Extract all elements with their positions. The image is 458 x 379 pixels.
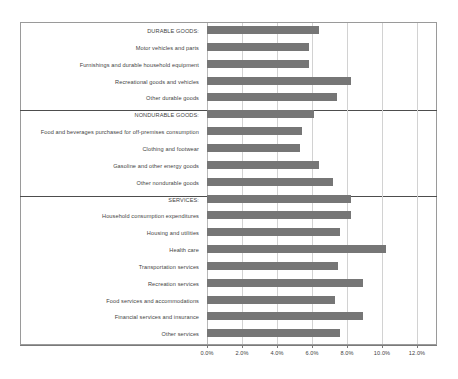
x-tick-label: 2.0% xyxy=(235,350,248,356)
category-label: Food services and accommodations xyxy=(106,293,199,310)
category-label: Clothing and footwear xyxy=(142,141,199,158)
bar xyxy=(207,262,338,270)
bar-row xyxy=(207,57,437,74)
bar-row xyxy=(207,242,437,259)
bar xyxy=(207,211,351,219)
bar xyxy=(207,93,337,101)
bar-row xyxy=(207,124,437,141)
x-tick-10.0% xyxy=(382,345,383,348)
bar-row xyxy=(207,90,437,107)
bar-row xyxy=(207,276,437,293)
category-label: Food and beverages purchased for off-pre… xyxy=(41,124,199,141)
bar xyxy=(207,43,309,51)
category-label: Health care xyxy=(169,242,199,259)
bar xyxy=(207,279,363,287)
x-tick-label: 0.0% xyxy=(200,350,213,356)
bar xyxy=(207,296,335,304)
bar-row xyxy=(207,259,437,276)
x-axis-line xyxy=(20,345,437,346)
category-label: SERVICES: xyxy=(168,192,199,209)
x-tick-2.0% xyxy=(242,345,243,348)
bar xyxy=(207,26,319,34)
bar-row xyxy=(207,326,437,343)
category-label: Household consumption expenditures xyxy=(102,208,199,225)
bar-row xyxy=(207,225,437,242)
category-label: Housing and utilities xyxy=(147,225,199,242)
bar xyxy=(207,195,351,203)
bar xyxy=(207,127,302,135)
x-tick-label: 8.0% xyxy=(340,350,353,356)
x-tick-0.0% xyxy=(207,345,208,348)
x-tick-label: 4.0% xyxy=(270,350,283,356)
category-label: Other services xyxy=(162,326,199,343)
category-label: Other nondurable goods xyxy=(136,175,199,192)
bar-row xyxy=(207,158,437,175)
bar xyxy=(207,110,314,118)
bar-row xyxy=(207,23,437,40)
category-label: NONDURABLE GOODS: xyxy=(135,107,200,124)
category-label: Recreational goods and vehicles xyxy=(115,74,199,91)
bar xyxy=(207,161,319,169)
x-tick-8.0% xyxy=(347,345,348,348)
bar-rows xyxy=(207,23,437,344)
bar xyxy=(207,312,363,320)
x-tick-6.0% xyxy=(312,345,313,348)
x-tick-label: 6.0% xyxy=(305,350,318,356)
bar-row xyxy=(207,40,437,57)
plot-area xyxy=(207,23,437,344)
bar-row xyxy=(207,107,437,124)
category-label: Motor vehicles and parts xyxy=(136,40,199,57)
category-label: Financial services and insurance xyxy=(115,309,199,326)
bar-row xyxy=(207,208,437,225)
category-labels: DURABLE GOODS:Motor vehicles and partsFu… xyxy=(20,23,204,344)
bar xyxy=(207,228,340,236)
category-label: Other durable goods xyxy=(146,90,199,107)
bar-chart: DURABLE GOODS:Motor vehicles and partsFu… xyxy=(0,0,458,379)
category-label: Transportation services xyxy=(139,259,199,276)
category-label: DURABLE GOODS: xyxy=(147,23,199,40)
bar-row xyxy=(207,293,437,310)
x-tick-label: 10.0% xyxy=(374,350,390,356)
category-label: Recreation services xyxy=(148,276,199,293)
bar-row xyxy=(207,309,437,326)
category-label: Gasoline and other energy goods xyxy=(113,158,199,175)
bar-row xyxy=(207,192,437,209)
bar-row xyxy=(207,74,437,91)
x-tick-4.0% xyxy=(277,345,278,348)
x-tick-12.0% xyxy=(417,345,418,348)
bar xyxy=(207,329,340,337)
bar xyxy=(207,144,300,152)
bar-row xyxy=(207,141,437,158)
category-label: Furnishings and durable household equipm… xyxy=(80,57,199,74)
bar xyxy=(207,60,309,68)
bar-row xyxy=(207,175,437,192)
bar xyxy=(207,245,386,253)
bar xyxy=(207,178,333,186)
bar xyxy=(207,77,351,85)
x-tick-label: 12.0% xyxy=(409,350,425,356)
